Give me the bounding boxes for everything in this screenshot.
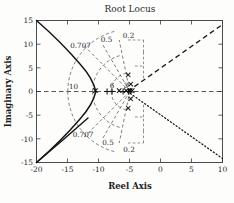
pole-marker [117, 88, 121, 92]
wn-arc-6-upper [93, 55, 121, 91]
wn-arc-6-lower [93, 92, 121, 128]
damping-label-05-lower: 0.5 [102, 138, 114, 147]
damping-label-02-upper: 0.2 [123, 31, 134, 40]
chart-title: Root Locus [105, 4, 156, 14]
x-tick-label: -10 [92, 165, 104, 174]
damping-label-0707-upper: 0.707 [70, 41, 91, 50]
y-tick-label: -15 [21, 158, 33, 167]
x-tick-label: 0 [158, 165, 163, 174]
pole-marker [129, 82, 133, 86]
asymptote-upper-right [128, 25, 223, 92]
x-axis-label: Reel Axis [108, 181, 152, 191]
wn-label-10: 10 [69, 82, 79, 91]
damping-label-0707-lower: 0.707 [73, 130, 94, 139]
y-tick-label: -10 [21, 135, 33, 144]
x-tick-label: 5 [189, 165, 194, 174]
damping-ray-02-lower [119, 92, 130, 144]
x-tick-label: 10 [218, 165, 228, 174]
y-axis-tick-labels: 15 10 5 0 -5 -10 -15 [21, 16, 33, 167]
y-axis-label: Imaginary Axis [3, 56, 13, 128]
damping-ray-05-lower [103, 92, 130, 139]
y-tick-label: 10 [23, 40, 33, 49]
x-axis-tick-labels: -20 -15 -10 -5 0 5 10 [30, 165, 227, 174]
y-tick-label: 5 [28, 64, 33, 73]
locus-upper-branch [37, 21, 96, 92]
asymptote-lower-right [128, 92, 223, 159]
locus-lower-left-diagonal [37, 118, 89, 163]
y-tick-label: 0 [28, 87, 33, 96]
y-tick-label: -5 [26, 111, 34, 120]
damping-label-05-upper: 0.5 [101, 35, 113, 44]
x-tick-label: -15 [61, 165, 73, 174]
x-tick-label: -5 [126, 165, 134, 174]
root-locus-figure: Root Locus [0, 0, 234, 203]
pole-marker [129, 97, 133, 101]
y-tick-label: 15 [23, 16, 33, 25]
damping-label-02-lower: 0.2 [123, 145, 134, 154]
locus-lower-branch [37, 92, 96, 163]
root-locus-plot: Root Locus [0, 0, 234, 203]
